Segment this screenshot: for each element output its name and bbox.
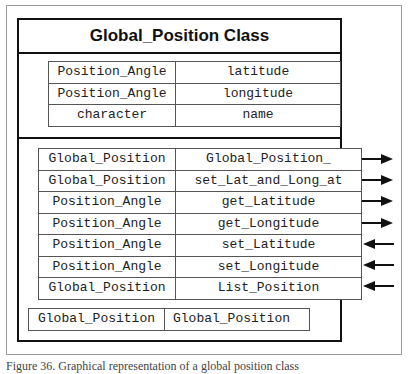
- attribute-type: Position_Angle: [49, 83, 176, 105]
- method-row: Global_Position List_Position: [39, 278, 362, 300]
- attribute-type: Position_Angle: [49, 62, 176, 84]
- attribute-row: Position_Angle latitude: [49, 62, 341, 84]
- method-name: set_Lat_and_Long_at: [176, 170, 362, 192]
- method-return-type: Position_Angle: [39, 192, 176, 214]
- method-row: Position_Angle set_Latitude: [39, 235, 362, 257]
- method-name: get_Latitude: [176, 192, 362, 214]
- method-arrows: [362, 148, 396, 297]
- method-return-type: Position_Angle: [39, 213, 176, 235]
- arrow-left-icon: [362, 233, 396, 254]
- arrow-right-icon: [362, 191, 396, 212]
- method-return-type: Position_Angle: [39, 235, 176, 257]
- figure-caption: Figure 36. Graphical representation of a…: [6, 359, 299, 374]
- method-name: set_Latitude: [176, 235, 362, 257]
- constructor-type: Global_Position: [29, 309, 165, 331]
- method-return-type: Global_Position: [39, 149, 176, 171]
- method-row: Global_Position set_Lat_and_Long_at: [39, 170, 362, 192]
- method-row: Position_Angle set_Longitude: [39, 256, 362, 278]
- method-row: Global_Position Global_Position_: [39, 149, 362, 171]
- attribute-type: character: [49, 105, 176, 127]
- arrow-right-icon: [362, 212, 396, 233]
- method-return-type: Global_Position: [39, 170, 176, 192]
- method-return-type: Position_Angle: [39, 256, 176, 278]
- method-return-type: Global_Position: [39, 278, 176, 300]
- section-divider: [19, 137, 340, 139]
- attribute-row: character name: [49, 105, 341, 127]
- constructor-row: Global_Position Global_Position: [29, 309, 310, 331]
- arrow-left-icon: [362, 254, 396, 275]
- method-row: Position_Angle get_Longitude: [39, 213, 362, 235]
- method-name: set_Longitude: [176, 256, 362, 278]
- method-name: get_Longitude: [176, 213, 362, 235]
- methods-table: Global_Position Global_Position_ Global_…: [38, 148, 362, 300]
- constructor-table: Global_Position Global_Position: [28, 308, 310, 331]
- method-row: Position_Angle get_Latitude: [39, 192, 362, 214]
- constructor-name: Global_Position: [165, 309, 310, 331]
- method-name: Global_Position_: [176, 149, 362, 171]
- arrow-right-icon: [362, 148, 396, 169]
- attribute-name: name: [176, 105, 341, 127]
- attributes-table: Position_Angle latitude Position_Angle l…: [48, 61, 341, 127]
- attribute-name: latitude: [176, 62, 341, 84]
- arrow-right-icon: [362, 169, 396, 190]
- arrow-left-icon: [362, 276, 396, 297]
- method-name: List_Position: [176, 278, 362, 300]
- attribute-row: Position_Angle longitude: [49, 83, 341, 105]
- class-title: Global_Position Class: [19, 20, 340, 54]
- attribute-name: longitude: [176, 83, 341, 105]
